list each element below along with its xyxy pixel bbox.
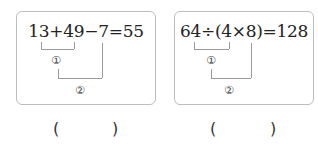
step-2-marker: ② [75, 84, 85, 97]
answer-1-blank[interactable] [64, 117, 108, 137]
bracket-2-right [102, 43, 103, 78]
bracket-2-bottom [211, 78, 251, 79]
bracket-2-left [211, 69, 212, 78]
problem-2-box: 64÷(4×8)=128 ① ② [174, 11, 314, 105]
problem-1-expression: 13+49−7=55 [17, 21, 155, 41]
bracket-1-bottom [194, 49, 229, 50]
step-1-marker: ① [51, 54, 61, 67]
bracket-1-right [74, 42, 75, 49]
bracket-2-right [251, 43, 252, 78]
bracket-1-right [229, 42, 230, 49]
bracket-2-bottom [58, 78, 102, 79]
answer-2-blank[interactable] [222, 117, 266, 137]
step-2-marker: ② [224, 84, 234, 97]
answer-1-open-paren: ( [53, 119, 59, 138]
bracket-2-left [58, 69, 59, 78]
bracket-1-left [194, 42, 195, 49]
bracket-1-left [41, 42, 42, 49]
step-1-marker: ① [206, 54, 216, 67]
bracket-1-bottom [41, 49, 74, 50]
answer-2-open-paren: ( [210, 119, 216, 138]
problem-2-expression: 64÷(4×8)=128 [175, 21, 313, 41]
answer-1-close-paren: ) [112, 119, 118, 138]
problem-1-box: 13+49−7=55 ① ② [16, 11, 156, 105]
answer-2-close-paren: ) [270, 119, 276, 138]
